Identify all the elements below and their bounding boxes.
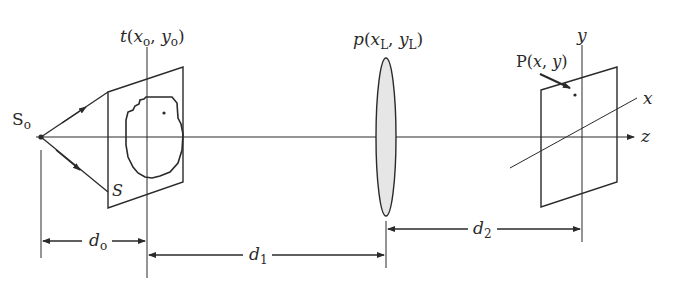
label-distance-object: do: [89, 230, 107, 253]
observation-x-axis: [510, 98, 637, 168]
ray-lower: [41, 137, 108, 192]
label-observation-point: P(x, y): [516, 52, 568, 71]
label-axis-y: y: [576, 25, 587, 45]
label-distance-2: d2: [473, 218, 492, 241]
optical-diagram: So t(xo, yo) p(xL, yL) P(x, y) S y x z d…: [0, 0, 687, 289]
lens: [376, 58, 396, 216]
label-secondary-source: S: [112, 181, 123, 200]
diagram-canvas: So t(xo, yo) p(xL, yL) P(x, y) S y x z d…: [0, 0, 687, 289]
label-source: So: [12, 109, 31, 132]
observation-point: [573, 93, 576, 96]
label-axis-x: x: [643, 88, 653, 108]
ray-upper-arrow: [62, 107, 86, 123]
ray-lower-arrow: [56, 150, 80, 170]
label-lens-function: p(xL, yL): [353, 29, 423, 52]
object-point: [162, 111, 165, 114]
label-object-function: t(xo, yo): [120, 26, 185, 49]
label-distance-1: d1: [249, 244, 268, 267]
label-axis-z: z: [640, 126, 651, 146]
